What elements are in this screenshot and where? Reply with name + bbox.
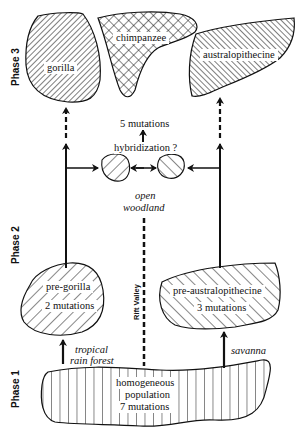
hybrid-blob-right: [158, 154, 185, 178]
open-woodland-label-1: open: [135, 190, 155, 202]
open-woodland-label-2: woodland: [123, 202, 164, 214]
pre-australopithecine-mutations: 3 mutations: [194, 302, 249, 314]
tropical-label-2: rain forest: [70, 355, 114, 367]
pre-gorilla-mutations: 2 mutations: [42, 300, 97, 312]
savanna-label: savanna: [231, 345, 266, 357]
gorilla-shape: [26, 13, 101, 102]
phase-1-label: Phase 1: [10, 370, 21, 408]
homogeneous-label-2: population: [122, 389, 173, 401]
australopithecine-label: australopithecine: [200, 49, 278, 61]
chimpanzee-label: chimpanzee: [113, 32, 169, 44]
phase-2-label: Phase 2: [10, 226, 21, 264]
five-mutations-label: 5 mutations: [120, 118, 169, 130]
hybrid-blob-left: [102, 154, 130, 181]
rift-valley-label: Rift Valley: [132, 284, 141, 320]
pre-australopithecine-label: pre-australopithecine: [170, 285, 265, 297]
phase-3-label: Phase 3: [10, 48, 21, 86]
chimpanzee-shape: [98, 12, 197, 97]
gorilla-label: gorilla: [44, 62, 77, 74]
homogeneous-mutations: 7 mutations: [117, 401, 172, 413]
pre-gorilla-label: pre-gorilla: [43, 281, 93, 293]
hybridization-label: hybridization ?: [114, 142, 177, 154]
homogeneous-label-1: homogeneous: [113, 377, 177, 389]
